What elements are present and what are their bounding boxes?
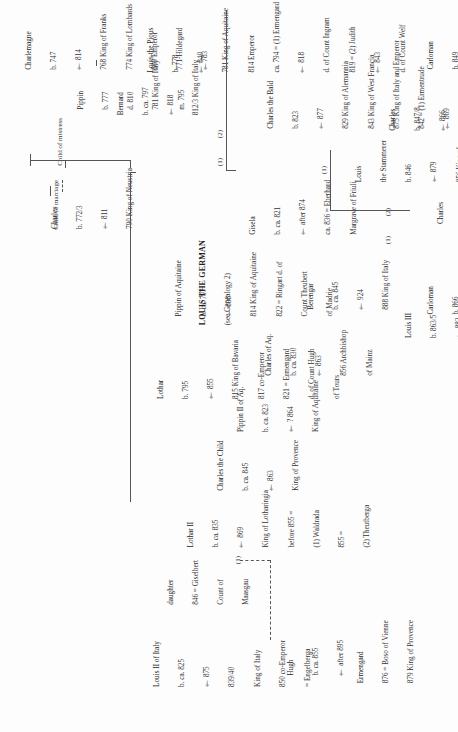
connector: [330, 210, 410, 211]
person-carloman-king: Carloman b. 866 † 884 879 King of Aquita…: [410, 250, 458, 314]
connector: [30, 160, 130, 161]
person-charles-the-child: Charles the Child b. ca. 845 † 863 King …: [200, 440, 318, 491]
connector: [130, 172, 131, 502]
connector: [30, 160, 31, 166]
connector-dashed: [270, 560, 271, 640]
person-lothar-ii: Lothar II b. ca. 835 † 869 King of Lotha…: [170, 490, 389, 548]
connector: [65, 160, 66, 168]
person-ermengard: Ermengard 876 = Boso of Vienne 879 King …: [340, 620, 432, 683]
person-gisela: Gisela b. ca. 821 † after 874 ca. 836 = …: [232, 180, 375, 235]
marriage-marker: (1): [216, 158, 224, 166]
marriage-marker: (1): [384, 236, 392, 244]
person-charles-of-aquitaine: Charles b. 847/8 † 866 855 King of Aquit…: [372, 80, 458, 131]
connector: [130, 160, 131, 168]
marriage-marker: (1): [320, 166, 328, 174]
connector-dashed: [240, 560, 270, 561]
person-carloman-abbott: Carloman b. 849 † ca. 876 854 tonsured 8…: [410, 10, 458, 70]
person-louis-the-german[interactable]: LOUIS THE GERMAN (see Genealogy 2): [182, 240, 249, 325]
marriage-marker: (2): [216, 130, 224, 138]
genealogy-page: Child of marriage Child of mistress Char…: [0, 0, 458, 732]
connector: [330, 150, 331, 210]
person-charles: Charles b. 772/3 † 811 790 King of Neust…: [34, 168, 152, 229]
connector: [226, 10, 227, 170]
person-pippin-ii: Pippin II of Aq. b. ca. 823 † ? 864 King…: [220, 380, 338, 432]
connector: [226, 170, 236, 171]
connector: [96, 60, 97, 66]
person-charles-the-straightforward: Charles the Straightforward b. 879 † 929…: [420, 150, 458, 224]
marriage-marker: (2): [384, 208, 392, 216]
connector: [130, 172, 136, 173]
person-charles-of-aq: Charles of Aq. b. ca. 830 † 863 856 Arch…: [248, 330, 391, 376]
legend-mistress: Child of mistress: [56, 118, 64, 166]
person-daughter: daughter 846 = Giselbert Count of Maasga…: [150, 560, 268, 605]
